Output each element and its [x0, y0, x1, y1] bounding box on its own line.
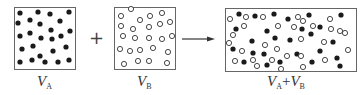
label-vb: VB	[137, 74, 152, 91]
label-va-plus-vb: VA+VB	[267, 74, 305, 91]
mixing-diagram: +	[0, 0, 362, 95]
label-sub-2: B	[300, 82, 305, 91]
label-main: V	[137, 73, 146, 89]
label-sub: B	[146, 82, 151, 91]
container-b	[115, 6, 176, 69]
label-main: V	[37, 73, 46, 89]
label-va: VA	[37, 74, 52, 91]
label-main: V	[267, 73, 276, 89]
plus-operator: +	[89, 27, 104, 48]
label-sub: A	[46, 82, 52, 91]
label-main-2: V	[290, 73, 299, 89]
container-a	[15, 8, 76, 70]
arrow-icon	[182, 37, 215, 42]
container-ab	[226, 9, 357, 72]
